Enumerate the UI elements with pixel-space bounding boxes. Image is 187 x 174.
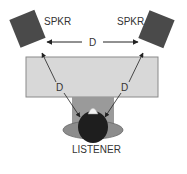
speaker-left-icon [9, 10, 45, 48]
distance-label-top: D [89, 37, 96, 48]
distance-label-left: D [56, 82, 63, 93]
listener-head-icon [78, 111, 108, 143]
distance-label-right: D [121, 82, 128, 93]
speaker-placement-diagram: SPKR SPKR D D D LISTENER [0, 0, 187, 174]
listener-label: LISTENER [72, 144, 121, 155]
speaker-left-label: SPKR [44, 16, 71, 27]
speaker-right-label: SPKR [117, 16, 144, 27]
